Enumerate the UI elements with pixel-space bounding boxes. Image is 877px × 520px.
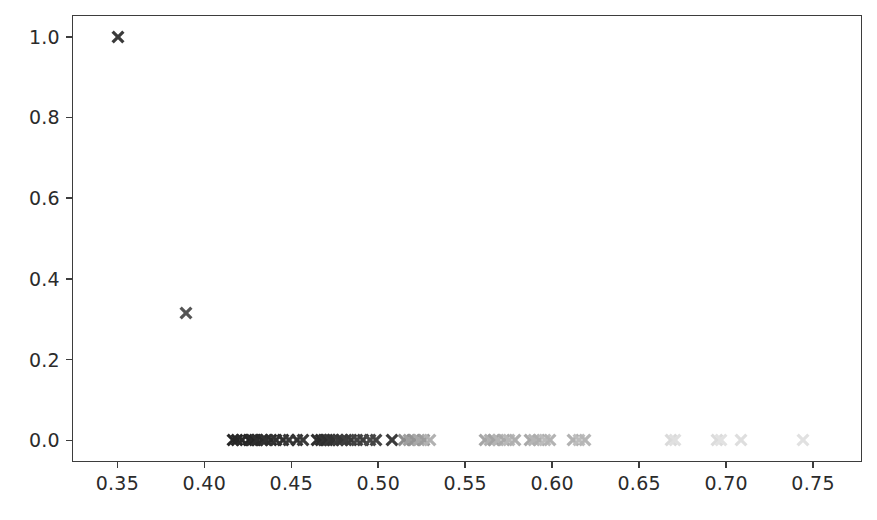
y-axis-tick-label: 0.0 [0,429,60,451]
x-axis-tick-label: 0.50 [357,472,401,494]
y-axis-tick [66,36,72,38]
scatter-plot-figure: 0.350.400.450.500.550.600.650.700.750.00… [0,0,877,520]
x-axis-tick-label: 0.65 [617,472,661,494]
data-point-marker [585,440,586,441]
y-axis-tick [66,440,72,442]
x-axis-tick [204,462,206,468]
data-point-marker [118,37,119,38]
x-axis-tick [291,462,293,468]
y-axis-tick-label: 0.4 [0,268,60,290]
data-point-marker [721,440,722,441]
data-point-marker [741,440,742,441]
x-axis-tick-label: 0.45 [270,472,314,494]
data-point-marker [803,440,804,441]
x-axis-tick [725,462,727,468]
x-axis-tick [638,462,640,468]
plot-area [72,15,862,462]
x-axis-tick-label: 0.60 [530,472,574,494]
x-axis-tick-label: 0.35 [96,472,140,494]
x-axis-tick-label: 0.40 [183,472,227,494]
data-point-marker [303,440,304,441]
y-axis-tick-label: 0.8 [0,106,60,128]
x-axis-tick [377,462,379,468]
y-axis-tick [66,359,72,361]
x-axis-tick [117,462,119,468]
x-axis-tick [551,462,553,468]
x-axis-tick-label: 0.75 [791,472,835,494]
data-point-marker [392,440,393,441]
y-axis-tick-label: 0.2 [0,349,60,371]
data-point-marker [515,440,516,441]
y-axis-tick-label: 0.6 [0,187,60,209]
y-axis-tick [66,197,72,199]
data-point-marker [186,313,187,314]
data-point-marker [675,440,676,441]
x-axis-tick [812,462,814,468]
x-axis-tick-label: 0.70 [704,472,748,494]
x-axis-tick [464,462,466,468]
x-axis-tick-label: 0.55 [443,472,487,494]
y-axis-tick [66,278,72,280]
data-point-marker [550,440,551,441]
data-point-marker [430,440,431,441]
data-point-marker [376,440,377,441]
y-axis-tick [66,117,72,119]
y-axis-tick-label: 1.0 [0,26,60,48]
